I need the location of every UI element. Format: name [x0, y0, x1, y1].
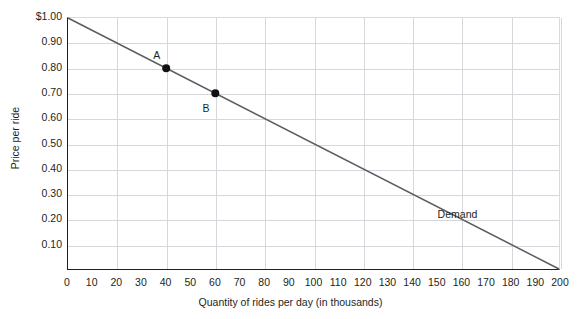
x-axis-tick-label: 120 — [354, 276, 372, 288]
gridline-vertical — [413, 18, 414, 269]
gridline-vertical — [364, 18, 365, 269]
gridline-horizontal — [68, 170, 559, 171]
x-axis-tick-label: 200 — [551, 276, 569, 288]
data-point-label-a: A — [153, 49, 160, 61]
x-axis-tick-labels: 0102030405060708090100110120130140150160… — [0, 276, 581, 292]
gridline-horizontal — [68, 43, 559, 44]
y-axis-tick-label: 0.20 — [16, 213, 62, 224]
gridline-horizontal — [68, 220, 559, 221]
gridline-horizontal — [68, 94, 559, 95]
y-axis-tick-label: 0.50 — [16, 138, 62, 149]
x-axis-tick-label: 130 — [379, 276, 397, 288]
x-axis-tick-label: 180 — [502, 276, 520, 288]
x-axis-tick-label: 10 — [86, 276, 98, 288]
x-axis-tick-label: 30 — [135, 276, 147, 288]
x-axis-tick-label: 20 — [110, 276, 122, 288]
y-axis-tick-label: $1.00 — [16, 11, 62, 22]
y-axis-tick-label: 0.90 — [16, 36, 62, 47]
gridline-vertical — [315, 18, 316, 269]
y-axis-tick-label: 0.70 — [16, 87, 62, 98]
x-axis-tick-label: 140 — [403, 276, 421, 288]
gridline-horizontal — [68, 145, 559, 146]
gridline-horizontal — [68, 69, 559, 70]
x-axis-tick-label: 80 — [258, 276, 270, 288]
gridline-vertical — [167, 18, 168, 269]
demand-curve-label: Demand — [438, 208, 478, 220]
x-axis-tick-label: 190 — [527, 276, 545, 288]
x-axis-tick-label: 60 — [209, 276, 221, 288]
x-axis-tick-label: 90 — [283, 276, 295, 288]
x-axis-tick-label: 0 — [64, 276, 70, 288]
gridline-vertical — [561, 18, 562, 269]
plot-area: AB Demand — [67, 17, 560, 270]
demand-line — [68, 18, 559, 269]
y-axis-tick-label: 0.10 — [16, 239, 62, 250]
x-axis-tick-label: 150 — [428, 276, 446, 288]
y-axis-tick-label: 0.30 — [16, 188, 62, 199]
x-axis-tick-label: 50 — [184, 276, 196, 288]
data-point-label-b: B — [203, 102, 210, 114]
x-axis-title: Quantity of rides per day (in thousands) — [0, 296, 581, 308]
x-axis-tick-label: 160 — [453, 276, 471, 288]
gridline-horizontal — [68, 246, 559, 247]
gridline-vertical — [462, 18, 463, 269]
y-axis-tick-label: 0.60 — [16, 112, 62, 123]
demand-line-layer — [68, 18, 559, 269]
y-axis-tick-label: 0.40 — [16, 163, 62, 174]
x-axis-tick-label: 100 — [305, 276, 323, 288]
y-axis-tick-labels: 0.100.200.300.400.500.600.700.800.90$1.0… — [14, 0, 62, 319]
gridline-horizontal — [68, 119, 559, 120]
gridline-vertical — [216, 18, 217, 269]
gridline-vertical — [265, 18, 266, 269]
x-axis-tick-label: 40 — [160, 276, 172, 288]
demand-line-group — [68, 18, 559, 269]
x-axis-tick-label: 70 — [234, 276, 246, 288]
y-axis-tick-label: 0.80 — [16, 62, 62, 73]
demand-curve-chart: Price per ride 0.100.200.300.400.500.600… — [0, 0, 581, 319]
gridline-vertical — [117, 18, 118, 269]
gridline-vertical — [512, 18, 513, 269]
x-axis-tick-label: 170 — [477, 276, 495, 288]
x-axis-tick-label: 110 — [330, 276, 347, 288]
gridline-horizontal — [68, 195, 559, 196]
